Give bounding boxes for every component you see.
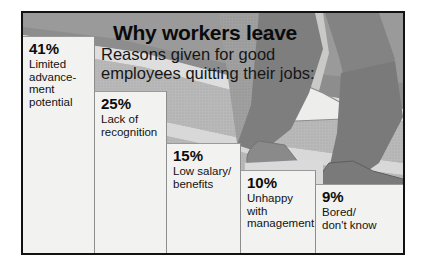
infographic-panel: Why workers leave Reasons given for good… — [21, 11, 405, 255]
bar-label-line: management — [247, 217, 310, 230]
bar-limited-advancement-potential: 41% Limited advance- ment potential — [23, 36, 95, 253]
bar-lack-of-recognition: 25% Lack of recognition — [94, 91, 167, 253]
bar-value-label: 25% — [101, 96, 161, 112]
bar-label-line: Lack of — [101, 113, 161, 126]
bar-label-line: recognition — [101, 126, 161, 139]
bar-label-line: potential — [29, 96, 89, 109]
bar-label-line: Bored/ — [322, 206, 398, 219]
bar-label-line: don't know — [322, 219, 398, 232]
bar-value-label: 9% — [322, 189, 398, 205]
bar-label-line: with — [247, 205, 310, 218]
bar-category-label: Low salary/ benefits — [173, 165, 235, 190]
bar-value-label: 10% — [247, 175, 310, 191]
bar-chart: 41% Limited advance- ment potential 25% … — [23, 13, 403, 253]
bar-value-label: 15% — [173, 148, 235, 164]
bar-unhappy-with-management: 10% Unhappy with management — [240, 170, 316, 253]
bar-label-line: Unhappy — [247, 192, 310, 205]
bar-label-line: benefits — [173, 178, 235, 191]
bar-category-label: Limited advance- ment potential — [29, 58, 89, 108]
bar-bored-dont-know: 9% Bored/ don't know — [315, 184, 403, 253]
bar-label-line: Limited — [29, 58, 89, 71]
bar-low-salary-benefits: 15% Low salary/ benefits — [166, 143, 241, 253]
bar-label-line: ment — [29, 83, 89, 96]
bar-category-label: Bored/ don't know — [322, 206, 398, 231]
bar-category-label: Lack of recognition — [101, 113, 161, 138]
bar-category-label: Unhappy with management — [247, 192, 310, 230]
bar-value-label: 41% — [29, 41, 89, 57]
bar-label-line: advance- — [29, 71, 89, 84]
bar-label-line: Low salary/ — [173, 165, 235, 178]
